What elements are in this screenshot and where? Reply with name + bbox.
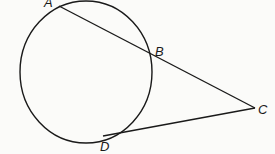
circle — [20, 1, 152, 143]
label-C: C — [258, 103, 267, 116]
diagram-canvas — [0, 0, 275, 154]
label-D: D — [100, 140, 109, 153]
tangent-DC — [103, 108, 255, 136]
label-B: B — [155, 45, 164, 58]
geometry-diagram: A B C D — [0, 0, 275, 154]
label-A: A — [44, 0, 53, 9]
